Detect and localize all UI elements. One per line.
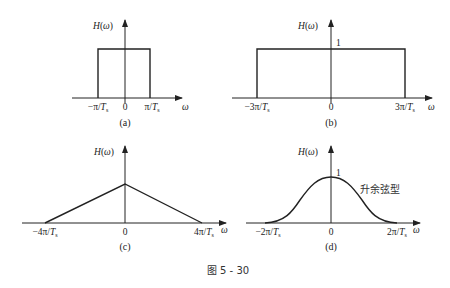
x-axis-label: ω [221, 225, 228, 235]
panel-a: H(ω) −π/Ts 0 π/Ts ω (a) [72, 20, 189, 129]
tick-zero: 0 [329, 102, 334, 112]
tick-zero: 0 [123, 102, 128, 112]
tick-pos: 2π/Ts [387, 227, 407, 238]
peak-label: 1 [336, 38, 341, 48]
x-axis-label: ω [413, 225, 420, 235]
tick-pos: π/Ts [144, 102, 160, 113]
tick-neg: −4π/Ts [32, 227, 58, 238]
rectangular-response [98, 49, 150, 98]
panel-label: (d) [325, 241, 337, 253]
panel-c: H(ω) −4π/Ts 0 4π/Ts ω (c) [22, 146, 228, 253]
figure-caption: 图 5 - 30 [207, 265, 249, 276]
tick-neg: −2π/Ts [255, 227, 281, 238]
tick-pos: 4π/Ts [194, 227, 214, 238]
y-axis-label: H(ω) [92, 21, 113, 32]
y-axis-label: H(ω) [297, 21, 318, 32]
panel-label: (a) [119, 117, 130, 129]
tick-zero: 0 [123, 227, 128, 237]
panel-d: H(ω) 1 升余弦型 −2π/Ts 0 2π/Ts ω (d) [246, 146, 420, 253]
x-axis-label: ω [182, 102, 189, 112]
panel-label: (c) [119, 241, 130, 253]
y-axis-label: H(ω) [93, 147, 114, 158]
panel-label: (b) [325, 117, 337, 129]
figure-canvas: H(ω) −π/Ts 0 π/Ts ω (a) H(ω) 1 −3π/Ts 0 … [0, 0, 450, 288]
tick-zero: 0 [329, 227, 334, 237]
y-axis-label: H(ω) [297, 147, 318, 158]
tick-pos: 3π/Ts [395, 102, 415, 113]
tick-neg: −3π/Ts [244, 102, 270, 113]
tick-neg: −π/Ts [88, 102, 109, 113]
peak-label: 1 [336, 168, 341, 178]
panel-b: H(ω) 1 −3π/Ts 0 3π/Ts ω (b) [232, 20, 435, 129]
triangular-response [45, 184, 202, 223]
raised-cosine-annotation: 升余弦型 [360, 183, 400, 195]
x-axis-label: ω [428, 102, 435, 112]
